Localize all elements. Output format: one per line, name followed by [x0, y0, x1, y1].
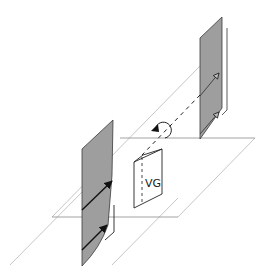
rotation-arrowhead [151, 124, 159, 132]
vg-card: VG [134, 149, 162, 208]
vg-label: VG [145, 177, 161, 190]
left-panel [82, 120, 114, 266]
right-panel-edge-line [222, 28, 227, 115]
left-panel-face [82, 120, 113, 266]
upper-plane-left-edge [52, 66, 200, 217]
right-panel [200, 17, 227, 139]
dashed-axis [142, 95, 200, 155]
lower-plane-right-edge [112, 198, 178, 265]
lower-plane-left-edge [10, 192, 82, 265]
upper-plane-right-edge [178, 138, 255, 217]
diagram-canvas: VG [0, 0, 261, 279]
